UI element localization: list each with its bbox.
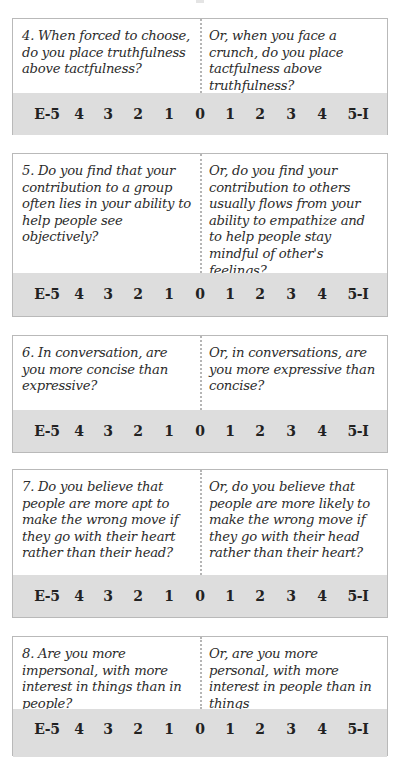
- scale-option-i5[interactable]: 5-I: [347, 410, 368, 452]
- scale-option-0[interactable]: 0: [195, 709, 204, 749]
- scale-option-e4[interactable]: 4: [74, 93, 83, 135]
- question-text-row: 4. When forced to choose, do you place t…: [13, 19, 387, 93]
- dotted-divider: [200, 470, 202, 575]
- scale-option-e1[interactable]: 1: [164, 273, 173, 316]
- scale-option-i1[interactable]: 1: [225, 93, 234, 135]
- question-right-statement: Or, are you more personal, with more int…: [200, 637, 387, 709]
- scale-option-i2[interactable]: 2: [255, 410, 264, 452]
- question-card-6: 6. In conversation, are you more concise…: [12, 335, 388, 453]
- scale-option-e5[interactable]: E-5: [34, 410, 60, 452]
- scale-option-e3[interactable]: 3: [103, 709, 112, 749]
- scale-option-e3[interactable]: 3: [103, 410, 112, 452]
- rating-scale: E-5 4 3 2 1 0 1 2 3 4 5-I: [13, 410, 387, 452]
- scale-option-e2[interactable]: 2: [133, 93, 142, 135]
- scale-option-i4[interactable]: 4: [317, 709, 326, 749]
- scale-option-e3[interactable]: 3: [103, 273, 112, 316]
- dotted-divider: [200, 637, 202, 709]
- scale-option-i4[interactable]: 4: [317, 410, 326, 452]
- scale-option-e2[interactable]: 2: [133, 410, 142, 452]
- scale-option-i5[interactable]: 5-I: [347, 709, 368, 749]
- scale-option-e4[interactable]: 4: [74, 709, 83, 749]
- scale-option-i1[interactable]: 1: [225, 273, 234, 316]
- question-card-8: 8. Are you more impersonal, with more in…: [12, 636, 388, 756]
- scale-option-i4[interactable]: 4: [317, 93, 326, 135]
- question-text-row: 5. Do you find that your contribution to…: [13, 154, 387, 273]
- rating-scale: E-5 4 3 2 1 0 1 2 3 4 5-I: [13, 709, 387, 757]
- question-left-statement: 4. When forced to choose, do you place t…: [13, 19, 200, 93]
- scale-option-i1[interactable]: 1: [225, 575, 234, 617]
- scale-option-i2[interactable]: 2: [255, 575, 264, 617]
- scale-option-i1[interactable]: 1: [225, 410, 234, 452]
- question-card-4: 4. When forced to choose, do you place t…: [12, 18, 388, 135]
- scale-option-e5[interactable]: E-5: [34, 709, 60, 749]
- scale-option-e2[interactable]: 2: [133, 273, 142, 316]
- scale-option-e2[interactable]: 2: [133, 709, 142, 749]
- scale-option-i3[interactable]: 3: [286, 709, 295, 749]
- scale-option-i1[interactable]: 1: [225, 709, 234, 749]
- scale-option-i3[interactable]: 3: [286, 575, 295, 617]
- scale-option-e1[interactable]: 1: [164, 410, 173, 452]
- question-text-row: 6. In conversation, are you more concise…: [13, 336, 387, 410]
- question-right-statement: Or, do you believe that people are more …: [200, 470, 387, 575]
- scale-option-i3[interactable]: 3: [286, 93, 295, 135]
- scale-option-e5[interactable]: E-5: [34, 273, 60, 316]
- question-text-row: 7. Do you believe that people are more a…: [13, 470, 387, 575]
- scale-option-e1[interactable]: 1: [164, 575, 173, 617]
- scale-option-e4[interactable]: 4: [74, 410, 83, 452]
- scale-option-e5[interactable]: E-5: [34, 93, 60, 135]
- scale-option-i5[interactable]: 5-I: [347, 575, 368, 617]
- rating-scale: E-5 4 3 2 1 0 1 2 3 4 5-I: [13, 273, 387, 316]
- scale-option-i2[interactable]: 2: [255, 93, 264, 135]
- question-right-statement: Or, when you face a crunch, do you place…: [200, 19, 387, 93]
- scale-option-e4[interactable]: 4: [74, 273, 83, 316]
- question-left-statement: 6. In conversation, are you more concise…: [13, 336, 200, 410]
- scale-option-i3[interactable]: 3: [286, 410, 295, 452]
- scale-option-e5[interactable]: E-5: [34, 575, 60, 617]
- scale-option-e2[interactable]: 2: [133, 575, 142, 617]
- scale-option-i4[interactable]: 4: [317, 273, 326, 316]
- scale-option-i2[interactable]: 2: [255, 273, 264, 316]
- scale-option-e3[interactable]: 3: [103, 575, 112, 617]
- question-card-5: 5. Do you find that your contribution to…: [12, 153, 388, 317]
- scale-option-i2[interactable]: 2: [255, 709, 264, 749]
- scale-option-i5[interactable]: 5-I: [347, 93, 368, 135]
- scale-option-e3[interactable]: 3: [103, 93, 112, 135]
- dotted-divider: [200, 154, 202, 273]
- scale-option-0[interactable]: 0: [195, 93, 204, 135]
- scale-option-0[interactable]: 0: [195, 575, 204, 617]
- question-text-row: 8. Are you more impersonal, with more in…: [13, 637, 387, 709]
- question-left-statement: 5. Do you find that your contribution to…: [13, 154, 200, 273]
- rating-scale: E-5 4 3 2 1 0 1 2 3 4 5-I: [13, 575, 387, 617]
- page-top-mark: [196, 0, 204, 3]
- scale-option-0[interactable]: 0: [195, 273, 204, 316]
- question-card-7: 7. Do you believe that people are more a…: [12, 469, 388, 618]
- question-right-statement: Or, in conversations, are you more expre…: [200, 336, 387, 410]
- scale-option-e1[interactable]: 1: [164, 709, 173, 749]
- scale-option-i5[interactable]: 5-I: [347, 273, 368, 316]
- scale-option-0[interactable]: 0: [195, 410, 204, 452]
- scale-option-e4[interactable]: 4: [74, 575, 83, 617]
- question-left-statement: 7. Do you believe that people are more a…: [13, 470, 200, 575]
- dotted-divider: [200, 19, 202, 93]
- scale-option-i3[interactable]: 3: [286, 273, 295, 316]
- scale-option-e1[interactable]: 1: [164, 93, 173, 135]
- scale-option-i4[interactable]: 4: [317, 575, 326, 617]
- rating-scale: E-5 4 3 2 1 0 1 2 3 4 5-I: [13, 93, 387, 135]
- question-left-statement: 8. Are you more impersonal, with more in…: [13, 637, 200, 709]
- question-right-statement: Or, do you find your contribution to oth…: [200, 154, 387, 273]
- dotted-divider: [200, 336, 202, 410]
